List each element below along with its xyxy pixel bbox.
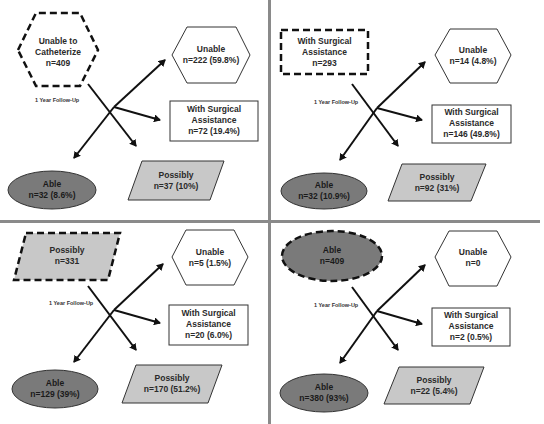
able-value: n=380 (93%) [280, 393, 368, 404]
source-line1: Unable to [18, 36, 98, 47]
follow-up-label: 1 Year Follow-Up [49, 300, 93, 306]
source-line1: With Surgical [281, 36, 368, 47]
surgical-outcome-label: With Surgical Assistance n=146 (49.8%) [432, 107, 511, 140]
possibly-value: n=92 (31%) [394, 183, 480, 194]
source-line1: Possibly [20, 245, 114, 256]
able-label: Able [280, 382, 368, 393]
possibly-label: Possibly [132, 170, 220, 181]
surgical-outcome-label: With Surgical Assistance n=72 (19.4%) [170, 104, 258, 137]
source-label: With Surgical Assistance n=293 [281, 36, 368, 69]
unable-value: n=0 [435, 258, 511, 269]
surgical-outcome-label: With Surgical Assistance n=20 (6.0%) [169, 308, 248, 341]
surgical-label2: Assistance [432, 118, 511, 129]
surgical-label1: With Surgical [432, 310, 510, 321]
unable-outcome-label: Unable n=222 (59.8%) [172, 44, 250, 66]
able-value: n=129 (39%) [12, 389, 98, 400]
possibly-value: n=22 (5.4%) [390, 386, 478, 397]
possibly-label: Possibly [128, 373, 216, 384]
unable-label: Unable [172, 44, 250, 55]
able-outcome-label: Able n=32 (8.6%) [8, 179, 96, 201]
surgical-label1: With Surgical [432, 107, 511, 118]
possibly-outcome-label: Possibly n=22 (5.4%) [390, 375, 478, 397]
surgical-label1: With Surgical [170, 104, 258, 115]
able-label: Able [281, 180, 367, 191]
follow-up-label: 1 Year Follow-Up [314, 99, 358, 105]
source-line1: Able [282, 245, 382, 256]
unable-value: n=14 (4.8%) [435, 56, 511, 67]
source-label: Unable to Catheterize n=409 [18, 36, 98, 69]
panel-unable-to-catheterize: 1 Year Follow-Up Unable to Catheterize n… [0, 0, 272, 212]
surgical-outcome-label: With Surgical Assistance n=2 (0.5%) [432, 310, 510, 343]
surgical-label2: Assistance [432, 321, 510, 332]
follow-up-label: 1 Year Follow-Up [314, 302, 358, 308]
possibly-label: Possibly [390, 375, 478, 386]
possibly-value: n=170 (51.2%) [128, 384, 216, 395]
able-outcome-label: Able n=32 (10.9%) [281, 180, 367, 202]
able-value: n=32 (10.9%) [281, 191, 367, 202]
unable-outcome-label: Unable n=14 (4.8%) [435, 45, 511, 67]
unable-value: n=222 (59.8%) [172, 55, 250, 66]
panel-able: 1 Year Follow-Up Able n=409 Unable n=0 W… [272, 212, 544, 424]
surgical-value: n=20 (6.0%) [169, 330, 248, 341]
able-outcome-label: Able n=129 (39%) [12, 378, 98, 400]
unable-label: Unable [435, 247, 511, 258]
surgical-value: n=2 (0.5%) [432, 332, 510, 343]
surgical-label2: Assistance [170, 115, 258, 126]
panel-possibly: 1 Year Follow-Up Possibly n=331 Unable n… [0, 212, 272, 424]
source-count: n=293 [281, 58, 368, 69]
surgical-label1: With Surgical [169, 308, 248, 319]
surgical-label2: Assistance [169, 319, 248, 330]
source-count: n=409 [282, 256, 382, 267]
unable-label: Unable [172, 247, 248, 258]
possibly-outcome-label: Possibly n=170 (51.2%) [128, 373, 216, 395]
possibly-label: Possibly [394, 172, 480, 183]
surgical-value: n=146 (49.8%) [432, 129, 511, 140]
follow-up-label: 1 Year Follow-Up [35, 97, 79, 103]
source-count: n=409 [18, 58, 98, 69]
possibly-value: n=37 (10%) [132, 181, 220, 192]
panel-with-surgical-assistance: 1 Year Follow-Up With Surgical Assistanc… [272, 0, 544, 212]
source-line2: Catheterize [18, 47, 98, 58]
able-outcome-label: Able n=380 (93%) [280, 382, 368, 404]
possibly-outcome-label: Possibly n=92 (31%) [394, 172, 480, 194]
possibly-outcome-label: Possibly n=37 (10%) [132, 170, 220, 192]
unable-label: Unable [435, 45, 511, 56]
source-line2: Assistance [281, 47, 368, 58]
unable-value: n=5 (1.5%) [172, 258, 248, 269]
surgical-value: n=72 (19.4%) [170, 126, 258, 137]
source-count: n=331 [20, 256, 114, 267]
able-label: Able [12, 378, 98, 389]
source-label: Able n=409 [282, 245, 382, 267]
unable-outcome-label: Unable n=0 [435, 247, 511, 269]
source-label: Possibly n=331 [20, 245, 114, 267]
able-label: Able [8, 179, 96, 190]
able-value: n=32 (8.6%) [8, 190, 96, 201]
unable-outcome-label: Unable n=5 (1.5%) [172, 247, 248, 269]
